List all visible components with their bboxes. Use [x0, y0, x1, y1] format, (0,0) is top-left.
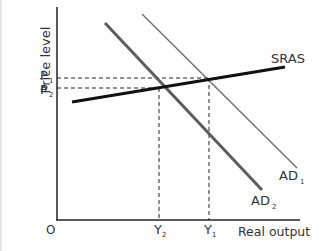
- sras-curve: [72, 67, 285, 102]
- ad-as-diagram: Price level P 1 P 2 O Y 2 Y 1 Real outpu…: [0, 0, 329, 251]
- svg-text:Y: Y: [203, 222, 212, 237]
- svg-text:2: 2: [162, 231, 166, 239]
- svg-text:1: 1: [49, 77, 53, 85]
- ad1-label: AD 1: [279, 168, 304, 186]
- x-axis-label: Real output: [238, 224, 310, 239]
- svg-text:AD: AD: [279, 168, 298, 183]
- origin-label: O: [46, 223, 55, 237]
- ad2-label: AD 2: [251, 193, 276, 211]
- y1-label: Y 1: [203, 222, 216, 239]
- svg-text:1: 1: [212, 231, 216, 239]
- svg-text:Y: Y: [153, 222, 162, 237]
- sras-label: SRAS: [271, 51, 305, 66]
- ad2-curve: [105, 23, 262, 190]
- svg-text:2: 2: [49, 91, 53, 99]
- svg-text:P: P: [40, 82, 48, 97]
- svg-text:1: 1: [300, 178, 304, 186]
- svg-text:2: 2: [272, 203, 276, 211]
- y2-label: Y 2: [153, 222, 166, 239]
- svg-text:P: P: [40, 68, 48, 83]
- svg-text:AD: AD: [251, 193, 270, 208]
